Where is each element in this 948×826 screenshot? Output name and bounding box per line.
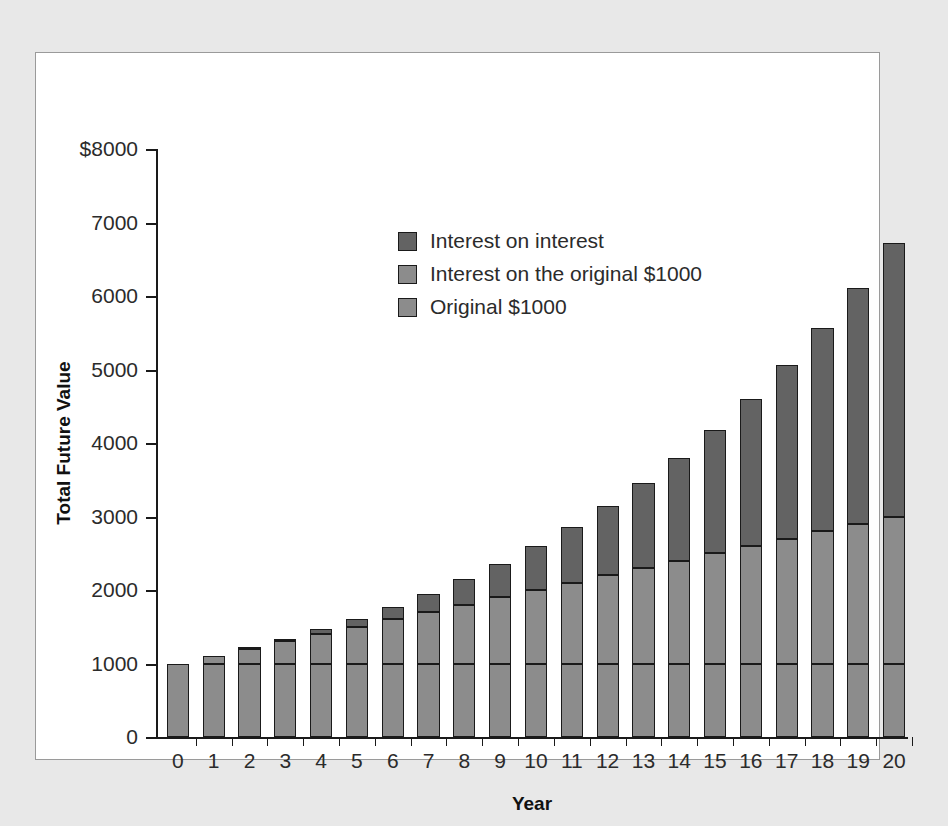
- x-tick: [876, 737, 877, 746]
- bar-year-1[interactable]: [203, 656, 225, 737]
- bar-segment-original: [525, 664, 547, 738]
- bar-segment-interest-on-interest: [561, 527, 583, 582]
- x-tick: [661, 737, 662, 746]
- bar-segment-interest-on-original: [704, 553, 726, 663]
- bar-year-3[interactable]: [274, 639, 296, 737]
- bar-year-15[interactable]: [704, 430, 726, 737]
- bar-year-11[interactable]: [561, 527, 583, 737]
- bar-year-7[interactable]: [417, 594, 439, 737]
- y-tick-label: 5000: [91, 358, 138, 382]
- chart-legend: Interest on interestInterest on the orig…: [398, 229, 702, 328]
- x-tick: [733, 737, 734, 746]
- bar-year-9[interactable]: [489, 564, 511, 737]
- x-tick-label: 2: [244, 749, 256, 773]
- x-tick: [196, 737, 197, 746]
- bar-segment-original: [847, 664, 869, 738]
- x-tick-label: 15: [703, 749, 726, 773]
- bar-year-12[interactable]: [597, 506, 619, 737]
- x-tick-label: 12: [596, 749, 619, 773]
- y-tick-label: 3000: [91, 505, 138, 529]
- x-tick-label: 20: [882, 749, 905, 773]
- y-tick: [146, 443, 156, 445]
- bar-year-13[interactable]: [632, 483, 654, 737]
- x-tick-label: 9: [494, 749, 506, 773]
- bar-segment-original: [704, 664, 726, 738]
- x-tick: [697, 737, 698, 746]
- x-tick-label: 4: [315, 749, 327, 773]
- bar-segment-original: [740, 664, 762, 738]
- y-tick: [146, 296, 156, 298]
- chart-page: $800070006000500040003000200010000 01234…: [0, 0, 948, 826]
- bar-year-16[interactable]: [740, 399, 762, 737]
- bar-year-14[interactable]: [668, 458, 690, 737]
- bar-segment-original: [167, 664, 189, 738]
- bar-segment-interest-on-interest: [417, 594, 439, 612]
- bar-segment-interest-on-interest: [525, 546, 547, 590]
- bar-segment-interest-on-original: [597, 575, 619, 663]
- bar-year-6[interactable]: [382, 607, 404, 737]
- y-tick-label: 2000: [91, 578, 138, 602]
- bar-year-2[interactable]: [238, 648, 260, 737]
- chart-panel: $800070006000500040003000200010000 01234…: [35, 52, 880, 760]
- bar-segment-original: [346, 664, 368, 738]
- bar-year-20[interactable]: [883, 243, 905, 737]
- x-tick-label: 8: [459, 749, 471, 773]
- bar-segment-original: [382, 664, 404, 738]
- x-axis-title: Year: [156, 793, 908, 815]
- x-tick: [375, 737, 376, 746]
- bar-segment-original: [668, 664, 690, 738]
- bar-segment-interest-on-interest: [740, 399, 762, 546]
- bar-segment-interest-on-interest: [274, 639, 296, 641]
- bar-segment-interest-on-interest: [776, 365, 798, 538]
- legend-label: Interest on interest: [430, 229, 604, 253]
- x-tick-label: 17: [775, 749, 798, 773]
- x-tick-label: 1: [208, 749, 220, 773]
- bar-segment-original: [597, 664, 619, 738]
- x-tick: [411, 737, 412, 746]
- bar-segment-original: [417, 664, 439, 738]
- legend-item[interactable]: Interest on the original $1000: [398, 262, 702, 286]
- x-tick: [840, 737, 841, 746]
- x-tick-label: 7: [423, 749, 435, 773]
- bar-segment-interest-on-interest: [811, 328, 833, 531]
- bar-segment-original: [274, 664, 296, 738]
- x-tick: [554, 737, 555, 746]
- y-tick: [146, 149, 156, 151]
- bar-segment-interest-on-interest: [704, 430, 726, 553]
- legend-swatch-icon: [398, 298, 417, 317]
- bar-year-4[interactable]: [310, 629, 332, 737]
- legend-item[interactable]: Original $1000: [398, 295, 702, 319]
- bar-segment-interest-on-original: [883, 517, 905, 664]
- y-tick: [146, 590, 156, 592]
- bar-year-0[interactable]: [167, 664, 189, 738]
- bar-segment-original: [310, 664, 332, 738]
- y-tick: [146, 664, 156, 666]
- x-tick: [446, 737, 447, 746]
- bar-segment-interest-on-interest: [489, 564, 511, 598]
- bar-segment-interest-on-original: [310, 634, 332, 663]
- bar-segment-interest-on-interest: [597, 506, 619, 575]
- y-tick-label: 1000: [91, 652, 138, 676]
- bar-year-17[interactable]: [776, 366, 798, 737]
- bar-year-18[interactable]: [811, 328, 833, 737]
- bar-segment-interest-on-original: [203, 656, 225, 663]
- bar-year-5[interactable]: [346, 619, 368, 737]
- legend-item[interactable]: Interest on interest: [398, 229, 702, 253]
- bar-year-19[interactable]: [847, 287, 869, 737]
- bar-segment-interest-on-original: [346, 627, 368, 664]
- bar-year-10[interactable]: [525, 546, 547, 737]
- x-tick: [303, 737, 304, 746]
- bar-year-8[interactable]: [453, 579, 475, 737]
- bar-segment-original: [238, 664, 260, 738]
- y-tick: [146, 370, 156, 372]
- bar-segment-interest-on-interest: [632, 483, 654, 568]
- x-tick: [626, 737, 627, 746]
- x-tick-label: 5: [351, 749, 363, 773]
- legend-swatch-icon: [398, 265, 417, 284]
- bar-segment-interest-on-original: [382, 619, 404, 663]
- y-tick-label: 4000: [91, 431, 138, 455]
- x-axis-line: [156, 737, 908, 739]
- bar-segment-interest-on-original: [417, 612, 439, 663]
- x-tick-label: 6: [387, 749, 399, 773]
- y-tick-label: 0: [126, 725, 138, 749]
